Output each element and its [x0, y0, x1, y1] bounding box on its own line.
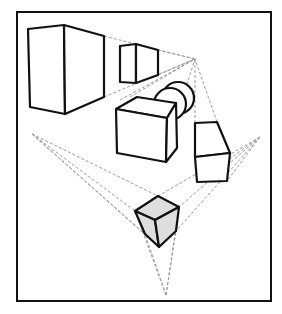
middle-box	[116, 97, 177, 162]
large-box	[28, 25, 104, 114]
small-box	[120, 44, 158, 83]
right-box	[195, 122, 230, 182]
shaded-cube	[135, 196, 179, 247]
perspective-diagram	[0, 0, 282, 314]
